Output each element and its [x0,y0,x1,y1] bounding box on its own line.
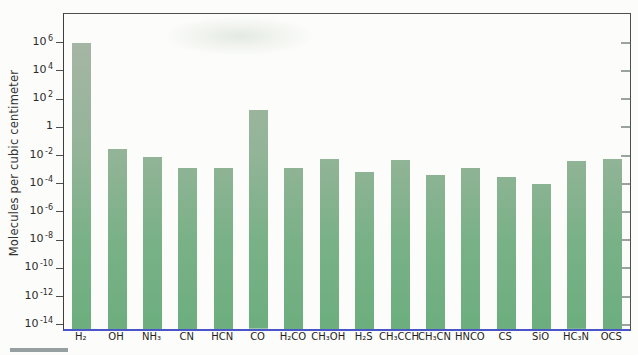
scan-smudge [164,16,314,56]
bar-16 [603,159,622,329]
x-axis-label: H₂ [75,331,87,342]
x-axis-label: SiO [532,331,549,342]
y-tick-right [621,296,630,298]
bar-4 [178,168,197,329]
y-tick-left [56,127,63,128]
y-tick-right [621,98,630,100]
x-axis-label: CH₃CN [418,331,451,342]
y-tick-left [56,240,63,241]
x-axis-label: HNCO [455,331,485,342]
bar-8 [320,159,339,329]
y-tick-right [621,70,630,72]
y-tick-label: 10-14 [0,317,53,332]
y-tick-label: 1 [0,119,53,133]
bar-14 [532,184,551,329]
bar-13 [497,177,516,329]
x-axis-label: CN [180,331,194,342]
plot-area [63,13,631,331]
y-tick-label: 10-8 [0,232,53,247]
x-axis-label: CH₃OH [311,331,345,342]
y-tick-label: 10-4 [0,176,53,191]
y-tick-label: 10-12 [0,289,53,304]
y-tick-left [56,99,63,100]
x-axis-label: CH₃CCH [379,331,419,342]
y-tick-right [621,267,630,269]
x-axis-label: OCS [601,331,622,342]
y-tick-left [56,324,63,325]
x-axis-label: H₂S [355,331,373,342]
bar-9 [355,172,374,329]
y-tick-left [56,183,63,184]
x-axis-label: OH [108,331,123,342]
y-tick-right [621,211,630,213]
y-tick-label: 106 [0,35,53,50]
bar-2 [108,149,127,329]
bar-10 [391,160,410,329]
x-axis-labels: H₂OHNH₃CNHCNCOH₂COCH₃OHH₂SCH₃CCHCH₃CNHNC… [63,331,629,349]
scanned-bar-chart-figure: Molecules per cubic centimeter 106104102… [0,0,638,355]
y-tick-left [56,42,63,43]
y-tick-right [621,324,630,326]
bar-6 [249,110,268,329]
x-axis-label: HC₃N [563,331,589,342]
x-axis-label: CS [499,331,512,342]
y-tick-right [621,155,630,157]
y-tick-label: 102 [0,91,53,106]
bar-5 [214,168,233,329]
y-tick-label: 10-10 [0,260,53,275]
x-axis-label: NH₃ [142,331,161,342]
x-axis-label: HCN [211,331,233,342]
bar-12 [461,168,480,329]
caption-box-edge [10,348,68,352]
y-tick-label: 10-6 [0,204,53,219]
bar-3 [143,157,162,329]
bar-7 [284,168,303,329]
y-tick-left [56,296,63,297]
y-tick-right [621,42,630,44]
x-axis-label: CO [250,331,265,342]
y-tick-left [56,268,63,269]
bar-15 [567,161,586,329]
y-axis-tick-labels: 106104102110-210-410-610-810-1010-1210-1… [0,13,53,328]
y-tick-left [56,155,63,156]
x-axis-label: H₂CO [280,331,306,342]
bar-11 [426,175,445,330]
y-tick-label: 104 [0,63,53,78]
bar-1 [72,43,91,329]
y-tick-left [56,70,63,71]
y-tick-right [621,183,630,185]
y-tick-right [621,239,630,241]
y-tick-right [621,126,630,128]
y-tick-label: 10-2 [0,148,53,163]
y-tick-left [56,211,63,212]
